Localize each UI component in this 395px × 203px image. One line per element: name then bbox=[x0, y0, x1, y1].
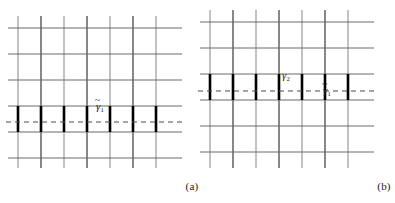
panel-b bbox=[192, 0, 384, 203]
gamma-subscript: 1 bbox=[101, 106, 104, 113]
label-gamma-2: γ2 bbox=[282, 70, 290, 83]
label-gamma-tilde-1: ~γ1 bbox=[96, 101, 104, 114]
panel-a: ~γ1 bbox=[0, 0, 192, 203]
panel-b-canvas bbox=[192, 0, 384, 180]
panel-a-canvas bbox=[0, 0, 192, 180]
gamma-glyph: γ bbox=[282, 69, 286, 81]
panel-a-vertical-gridlines bbox=[18, 16, 156, 168]
gamma-subscript: 1 bbox=[328, 90, 331, 97]
label-gamma-tilde-1: ~γ1 bbox=[323, 85, 331, 98]
caption-b: (b) bbox=[192, 180, 395, 192]
panel-a-bold-edges bbox=[18, 106, 156, 132]
gamma-subscript: 2 bbox=[287, 75, 290, 82]
